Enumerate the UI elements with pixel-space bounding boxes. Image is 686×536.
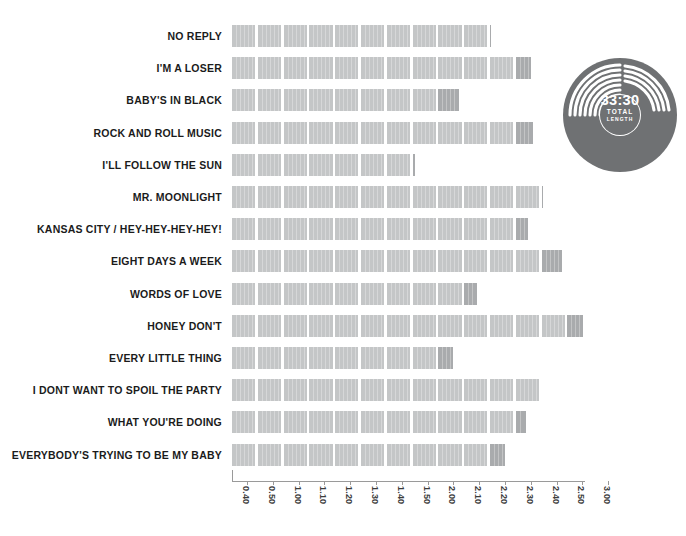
bar-groove-line — [236, 315, 237, 337]
category-label: NO REPLY — [168, 30, 222, 42]
bar-groove-line — [476, 444, 477, 466]
bar-row[interactable] — [232, 57, 585, 79]
bar-groove-line — [329, 283, 330, 305]
bar-groove-line — [381, 57, 382, 79]
bar-segment — [335, 283, 358, 305]
bar-segment — [258, 347, 281, 369]
category-label: I DONT WANT TO SPOIL THE PARTY — [33, 384, 222, 396]
bar-row[interactable] — [232, 218, 585, 240]
x-axis-tick-label: 1.10 — [318, 486, 328, 504]
bar-groove-line — [296, 250, 297, 272]
bar-groove-line — [329, 218, 330, 240]
bar-groove-line — [248, 250, 249, 272]
bar-groove-line — [524, 250, 525, 272]
bar-groove-line — [266, 57, 267, 79]
bar-groove-line — [270, 154, 271, 176]
bar-groove-line — [536, 379, 537, 401]
bar-groove-line — [347, 411, 348, 433]
bar-groove-line — [403, 444, 404, 466]
bar-groove-line — [278, 315, 279, 337]
bar-groove-line — [520, 411, 521, 433]
bar-groove-line — [262, 347, 263, 369]
bar-groove-line — [472, 250, 473, 272]
bar-row[interactable] — [232, 154, 585, 176]
bar-row[interactable] — [232, 283, 585, 305]
bar-groove-line — [369, 250, 370, 272]
bar-groove-line — [458, 315, 459, 337]
bar-groove-line — [244, 186, 245, 208]
bar-segment — [387, 218, 410, 240]
bar-segment — [284, 411, 307, 433]
bar-segment — [464, 122, 487, 144]
bar-groove-line — [524, 379, 525, 401]
bar-segment — [413, 250, 436, 272]
bar-groove-line — [236, 186, 237, 208]
x-axis-tick — [402, 481, 403, 485]
bar-row[interactable] — [232, 347, 585, 369]
bar-groove-line — [262, 154, 263, 176]
bar-groove-line — [429, 315, 430, 337]
bar-groove-line — [446, 250, 447, 272]
bar-groove-line — [355, 444, 356, 466]
bar-groove-line — [468, 57, 469, 79]
bar-row[interactable] — [232, 25, 585, 47]
bar-segment — [438, 315, 461, 337]
bar-row[interactable] — [232, 315, 585, 337]
bar-row[interactable] — [232, 379, 585, 401]
bar-groove-line — [403, 25, 404, 47]
bar-groove-line — [266, 347, 267, 369]
bar-groove-line — [270, 250, 271, 272]
bar-groove-line — [468, 25, 469, 47]
bar-row[interactable] — [232, 411, 585, 433]
bar-groove-line — [244, 283, 245, 305]
bar-groove-line — [381, 25, 382, 47]
bar-groove-line — [446, 347, 447, 369]
bar-segment — [516, 315, 539, 337]
bar-groove-line — [355, 379, 356, 401]
bar-groove-line — [288, 89, 289, 111]
bar-groove-line — [417, 25, 418, 47]
bar-groove-line — [399, 57, 400, 79]
bar-groove-line — [442, 25, 443, 47]
bar-row[interactable] — [232, 250, 585, 272]
bar-row[interactable] — [232, 444, 585, 466]
bar-segment — [284, 186, 307, 208]
bar-groove-line — [468, 218, 469, 240]
bar-row[interactable] — [232, 122, 585, 144]
bar-groove-line — [458, 218, 459, 240]
bar-row[interactable] — [232, 186, 585, 208]
bar-groove-line — [498, 411, 499, 433]
bar-groove-line — [494, 444, 495, 466]
bar-segment — [335, 154, 358, 176]
bar-groove-line — [343, 122, 344, 144]
bar-groove-line — [429, 186, 430, 208]
bar-groove-line — [262, 379, 263, 401]
bar-groove-line — [288, 122, 289, 144]
bar-groove-line — [304, 347, 305, 369]
bar-groove-line — [343, 444, 344, 466]
category-label: WHAT YOU'RE DOING — [108, 416, 222, 428]
bar-groove-line — [417, 379, 418, 401]
bar-groove-line — [266, 25, 267, 47]
bar-segment — [335, 250, 358, 272]
bar-groove-line — [446, 379, 447, 401]
bar-groove-line — [532, 379, 533, 401]
bar-groove-line — [300, 444, 301, 466]
bar-groove-line — [494, 379, 495, 401]
bar-groove-line — [292, 25, 293, 47]
bar-groove-line — [381, 347, 382, 369]
bar-groove-line — [377, 411, 378, 433]
bar-segment — [309, 154, 332, 176]
bar-groove-line — [494, 122, 495, 144]
bar-groove-line — [373, 154, 374, 176]
bar-groove-line — [399, 315, 400, 337]
bar-groove-line — [407, 379, 408, 401]
bar-groove-line — [442, 411, 443, 433]
bar-groove-line — [506, 379, 507, 401]
bar-groove-line — [317, 57, 318, 79]
bar-groove-line — [339, 89, 340, 111]
bar-row[interactable] — [232, 89, 585, 111]
bar-groove-line — [502, 218, 503, 240]
bar-groove-line — [395, 379, 396, 401]
bar-groove-line — [425, 444, 426, 466]
